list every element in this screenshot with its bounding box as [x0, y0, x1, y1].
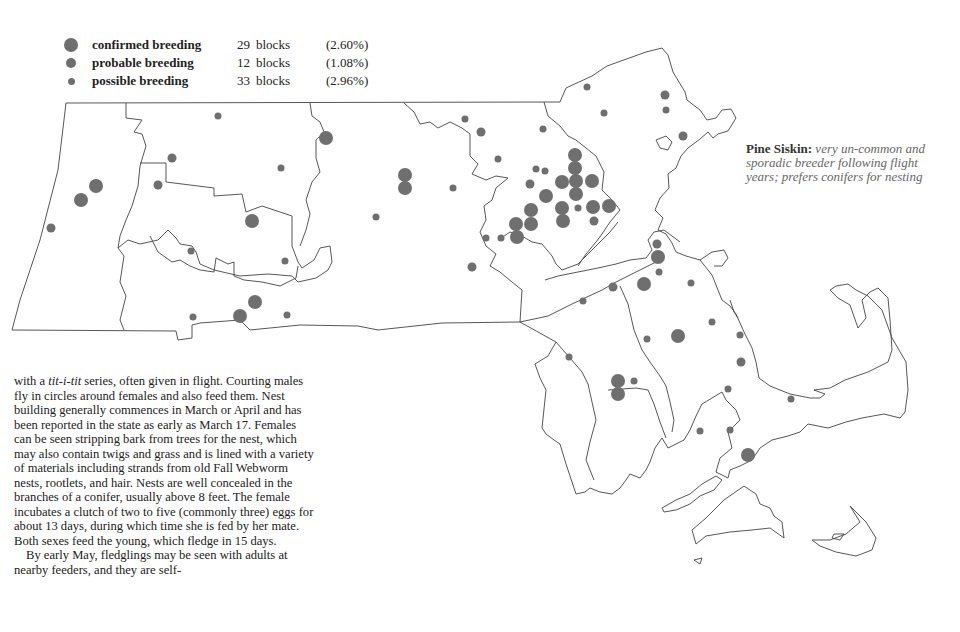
county-line	[118, 163, 332, 282]
call-phrase: tit-i-tit	[48, 374, 81, 388]
legend-row-probable: probable breeding 12 blocks (1.08%)	[60, 54, 368, 72]
confirmed-breeding-dot	[555, 175, 569, 189]
probable-dot-icon	[66, 58, 76, 68]
possible-breeding-dot	[656, 269, 663, 276]
possible-breeding-dot	[462, 116, 469, 123]
legend-count: 12	[228, 54, 250, 72]
possible-breeding-dot	[450, 185, 457, 192]
probable-breeding-dot	[154, 181, 163, 190]
legend-percent: (2.96%)	[326, 72, 368, 90]
county-line	[620, 286, 674, 432]
confirmed-breeding-dot	[585, 174, 599, 188]
possible-breeding-dot	[284, 312, 291, 319]
legend-row-confirmed: confirmed breeding 29 blocks (2.60%)	[60, 36, 368, 54]
legend-row-possible: possible breeding 33 blocks (2.96%)	[60, 72, 368, 90]
county-line	[150, 236, 298, 286]
confirmed-breeding-dot	[245, 214, 259, 228]
legend-label: probable breeding	[92, 54, 228, 72]
legend-unit: blocks	[256, 36, 304, 54]
possible-breeding-dot	[215, 113, 222, 120]
marthas-vineyard	[692, 486, 784, 544]
possible-breeding-dot	[495, 156, 502, 163]
probable-breeding-dot	[737, 358, 746, 367]
confirmed-breeding-dot	[741, 448, 755, 462]
confirmed-breeding-dot	[524, 203, 538, 217]
possible-dot-icon	[68, 78, 75, 85]
legend: confirmed breeding 29 blocks (2.60%) pro…	[60, 36, 368, 90]
county-line	[404, 103, 522, 322]
probable-breeding-dot	[47, 224, 56, 233]
possible-breeding-dot	[644, 336, 651, 343]
confirmed-breeding-dot	[602, 199, 616, 213]
confirmed-breeding-dot	[569, 187, 583, 201]
probable-breeding-dot	[526, 180, 535, 189]
possible-breeding-dot	[188, 248, 195, 255]
confirmed-breeding-dot	[248, 295, 262, 309]
possible-breeding-dot	[737, 332, 744, 339]
confirmed-breeding-dot	[611, 374, 625, 388]
confirmed-breeding-dot	[568, 148, 582, 162]
possible-breeding-dot	[373, 214, 380, 221]
possible-breeding-dot	[727, 427, 734, 434]
confirmed-breeding-dot	[637, 277, 651, 291]
possible-breeding-dot	[601, 110, 608, 117]
possible-breeding-dot	[566, 354, 573, 361]
confirmed-breeding-dot	[233, 309, 247, 323]
text-run: series, often given in flight. Courting …	[14, 374, 314, 548]
confirmed-breeding-dot	[611, 387, 625, 401]
confirmed-breeding-dot	[555, 201, 569, 215]
legend-percent: (1.08%)	[326, 54, 368, 72]
possible-breeding-dot	[533, 166, 540, 173]
confirmed-breeding-dot	[524, 217, 538, 231]
legend-unit: blocks	[256, 72, 304, 90]
confirmed-breeding-dot	[586, 200, 600, 214]
confirmed-breeding-dot	[651, 250, 665, 264]
possible-breeding-dot	[663, 107, 670, 114]
legend-unit: blocks	[256, 54, 304, 72]
paragraph-1: with a tit-i-tit series, often given in …	[14, 374, 314, 548]
confirmed-breeding-dot	[569, 174, 583, 188]
confirmed-breeding-dot	[319, 131, 333, 145]
possible-breeding-dot	[788, 396, 795, 403]
county-line	[520, 262, 656, 322]
confirmed-breeding-dot	[509, 217, 523, 231]
confirmed-breeding-dot	[568, 161, 582, 175]
possible-breeding-dot	[483, 235, 490, 242]
probable-breeding-dot	[679, 132, 688, 141]
confirmed-breeding-dot	[539, 189, 553, 203]
paragraph-2: By early May, fledglings may be seen wit…	[14, 548, 314, 577]
county-line	[118, 103, 146, 330]
nantucket	[812, 506, 876, 556]
confirmed-breeding-dot	[74, 193, 88, 207]
possible-breeding-dot	[725, 386, 732, 393]
probable-breeding-dot	[661, 91, 670, 100]
probable-breeding-dot	[168, 154, 177, 163]
legend-percent: (2.60%)	[326, 36, 368, 54]
possible-breeding-dot	[580, 298, 587, 305]
possible-breeding-dot	[542, 168, 549, 175]
coastline-detail	[700, 250, 728, 266]
legend-count: 29	[228, 36, 250, 54]
confirmed-breeding-dot	[556, 214, 570, 228]
legend-count: 33	[228, 72, 250, 90]
confirmed-breeding-dot	[89, 179, 103, 193]
probable-breeding-dot	[477, 128, 486, 137]
species-caption: Pine Siskin: very un-common and sporadic…	[746, 142, 946, 184]
possible-breeding-dot	[709, 319, 716, 326]
legend-label: possible breeding	[92, 72, 228, 90]
possible-breeding-dot	[688, 280, 695, 287]
possible-breeding-dot	[498, 235, 505, 242]
confirmed-breeding-dot	[510, 230, 524, 244]
elizabeth-islands	[662, 476, 722, 512]
probable-breeding-dot	[609, 283, 618, 292]
possible-breeding-dot	[190, 314, 197, 321]
possible-breeding-dot	[282, 258, 289, 265]
body-text: with a tit-i-tit series, often given in …	[14, 374, 314, 577]
small-island	[694, 558, 702, 564]
legend-label: confirmed breeding	[92, 36, 228, 54]
probable-breeding-dot	[653, 240, 662, 249]
confirmed-breeding-dot	[398, 168, 412, 182]
coastline-detail	[656, 136, 672, 150]
possible-breeding-dot	[584, 84, 591, 91]
possible-breeding-dot	[575, 205, 582, 212]
